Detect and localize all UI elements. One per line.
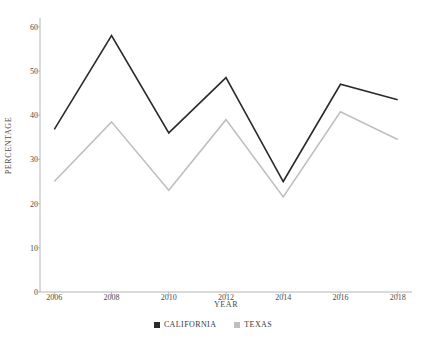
plot-svg <box>40 18 412 292</box>
y-axis-title-label: PERCENTAGE <box>5 116 14 173</box>
y-axis-tick-label: 0 <box>18 288 38 297</box>
y-axis-tick-label: 30 <box>18 155 38 164</box>
legend-swatch-icon <box>154 322 160 328</box>
x-axis-title: YEAR <box>40 300 412 309</box>
legend-swatch-icon <box>234 322 240 328</box>
plot-area <box>40 18 412 292</box>
y-axis-tick-label: 50 <box>18 67 38 76</box>
line-chart: PERCENTAGE 0102030405060 200620082010201… <box>0 0 426 344</box>
y-axis-tick-label: 20 <box>18 199 38 208</box>
y-axis-tick-label: 40 <box>18 111 38 120</box>
x-axis-title-label: YEAR <box>214 300 238 309</box>
legend-label: CALIFORNIA <box>164 320 216 329</box>
axis-lines <box>40 18 412 292</box>
series-line-california <box>54 36 397 182</box>
y-axis-tick-label: 10 <box>18 243 38 252</box>
legend-label: TEXAS <box>244 320 272 329</box>
legend-entry-california[interactable]: CALIFORNIA <box>154 320 216 329</box>
y-axis-tick-label: 60 <box>18 22 38 31</box>
legend-entry-texas[interactable]: TEXAS <box>234 320 272 329</box>
series-line-texas <box>54 112 397 197</box>
chart-legend: CALIFORNIATEXAS <box>0 320 426 329</box>
y-axis-tick-labels: 0102030405060 <box>14 18 38 292</box>
series-lines <box>54 36 397 197</box>
